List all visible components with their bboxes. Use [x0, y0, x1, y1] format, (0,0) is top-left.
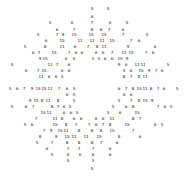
scatter-point-label: 15 — [33, 99, 38, 103]
scatter-point-label: 6 — [55, 75, 58, 79]
scatter-point-label: 6 — [95, 117, 98, 121]
scatter-point-label: 6 — [45, 39, 48, 43]
scatter-point-label: 5 — [146, 33, 149, 37]
scatter-point-label: 7 — [56, 63, 59, 67]
scatter-point-label: 15 — [51, 51, 56, 55]
scatter-point-label: 6 — [66, 87, 69, 91]
scatter-point-label: 5 — [36, 141, 39, 145]
scatter-point-label: 6 — [25, 69, 28, 73]
scatter-point-label: 15 — [64, 135, 69, 139]
scatter-point-label: 5 — [107, 7, 110, 11]
scatter-point-label: 11 — [140, 63, 145, 67]
scatter-point-label: 15 — [136, 87, 141, 91]
scatter-point-label: 9 — [126, 57, 129, 61]
scatter-point-label: 5 — [73, 93, 76, 97]
scatter-point-label: 6 — [118, 87, 121, 91]
scatter-point-label: 15 — [109, 129, 114, 133]
scatter-point-label: 6 — [63, 111, 66, 115]
scatter-point-label: 6 — [102, 51, 105, 55]
scatter-point-label: 5 — [73, 87, 76, 91]
scatter-point-label: 15 — [52, 123, 57, 127]
scatter-point-label: 7 — [87, 45, 90, 49]
scatter-plot-area: 5565676567887657915151575615111111157658… — [0, 0, 185, 180]
scatter-point-label: 15 — [71, 33, 76, 37]
scatter-point-label: 6 — [68, 63, 71, 67]
scatter-point-label: 7 — [132, 129, 135, 133]
scatter-point-label: 6 — [130, 69, 133, 73]
scatter-point-label: 9 — [148, 69, 151, 73]
scatter-point-label: 7 — [23, 87, 26, 91]
scatter-point-label: 7 — [130, 99, 133, 103]
scatter-point-label: 15 — [41, 87, 46, 91]
scatter-point-label: 15 — [117, 57, 122, 61]
scatter-point-label: 9 — [118, 63, 121, 67]
scatter-point-label: 7 — [67, 147, 70, 151]
scatter-point-label: 11 — [59, 45, 64, 49]
scatter-point-label: 7 — [122, 33, 125, 37]
scatter-point-label: 7 — [125, 87, 128, 91]
scatter-point-label: 7 — [56, 33, 59, 37]
scatter-point-label: 7 — [139, 117, 142, 121]
scatter-point-label: 8 — [100, 129, 103, 133]
scatter-point-label: 6 — [111, 57, 114, 61]
scatter-point-label: 6 — [104, 57, 107, 61]
scatter-point-label: 15 — [128, 51, 133, 55]
scatter-point-label: 9 — [127, 45, 130, 49]
scatter-point-label: 5 — [118, 99, 121, 103]
scatter-point-label: 8 — [132, 117, 135, 121]
scatter-point-label: 7 — [32, 105, 35, 109]
scatter-point-label: 6 — [138, 39, 141, 43]
scatter-point-label: 9 — [151, 99, 154, 103]
scatter-point-label: 8 — [109, 123, 112, 127]
scatter-point-label: 8 — [78, 141, 81, 145]
scatter-point-label: 6 — [123, 93, 126, 97]
scatter-point-label: 9 — [55, 135, 58, 139]
scatter-point-label: 5 — [24, 45, 27, 49]
scatter-point-label: 11 — [121, 51, 126, 55]
scatter-point-label: 15 — [138, 69, 143, 73]
scatter-point-label: 7 — [43, 129, 46, 133]
scatter-point-label: 15 — [101, 33, 106, 37]
scatter-point-label: 6 — [161, 69, 164, 73]
scatter-point-label: 6 — [109, 21, 112, 25]
scatter-point-label: 8 — [138, 99, 141, 103]
scatter-point-label: 5 — [67, 159, 70, 163]
scatter-point-label: 11 — [45, 99, 50, 103]
scatter-point-label: 7 — [37, 69, 40, 73]
scatter-point-label: 11 — [52, 117, 57, 121]
scatter-point-label: 6 — [95, 123, 98, 127]
scatter-point-label: 11 — [47, 63, 52, 67]
scatter-point-label: 5 — [170, 105, 173, 109]
scatter-point-label: 5 — [49, 21, 52, 25]
scatter-point-label: 7 — [91, 21, 94, 25]
scatter-point-label: 6 — [163, 87, 166, 91]
scatter-point-label: 6 — [70, 111, 73, 115]
scatter-point-label: 7 — [157, 105, 160, 109]
scatter-point-label: 6 — [130, 93, 133, 97]
scatter-point-label: 8 — [51, 105, 54, 109]
scatter-point-label: 15 — [88, 33, 93, 37]
scatter-point-label: 7 — [100, 141, 103, 145]
scatter-point-label: 9 — [39, 57, 42, 61]
scatter-point-label: 8 — [91, 141, 94, 145]
scatter-point-label: 11 — [89, 39, 94, 43]
scatter-point-label: 8 — [57, 99, 60, 103]
scatter-point-label: 11 — [99, 39, 104, 43]
scatter-point-label: 9 — [31, 87, 34, 91]
scatter-point-label: 7 — [38, 51, 41, 55]
scatter-point-label: 6 — [66, 93, 69, 97]
scatter-point-label: 5 — [24, 123, 27, 127]
scatter-point-label: 7 — [145, 51, 148, 55]
scatter-point-label: 8 — [44, 45, 47, 49]
scatter-point-label: 8 — [118, 135, 121, 139]
scatter-point-label: 8 — [41, 99, 44, 103]
scatter-point-label: 5 — [123, 69, 126, 73]
scatter-point-label: 6 — [74, 45, 77, 49]
scatter-point-label: 6 — [116, 141, 119, 145]
scatter-point-label: 6 — [95, 51, 98, 55]
scatter-point-label: 5 — [92, 159, 95, 163]
scatter-point-label: 9 — [62, 33, 65, 37]
scatter-point-label: 7 — [155, 69, 158, 73]
scatter-point-label: 5 — [11, 63, 14, 67]
scatter-point-label: 8 — [123, 75, 126, 79]
